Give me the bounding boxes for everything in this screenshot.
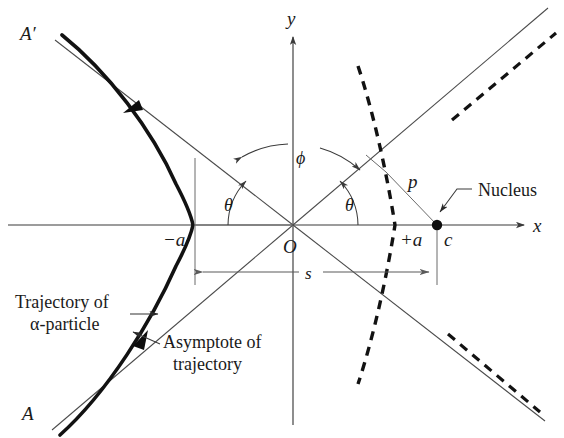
scattering-diagram-canvas: x y O bbox=[0, 0, 564, 438]
separation-label: s bbox=[305, 264, 312, 283]
theta-right-label: θ bbox=[345, 195, 354, 215]
vertex-label-group: −a +a c p bbox=[163, 171, 453, 250]
y-axis-label: y bbox=[285, 8, 296, 29]
trajectory-callout-group: Trajectory of α-particle bbox=[15, 292, 158, 334]
mirror-asymptote-lower-right bbox=[448, 334, 540, 412]
asymptote-lower-left-label: A bbox=[20, 403, 34, 424]
nucleus-pointer-line bbox=[440, 189, 472, 212]
phi-arc-right bbox=[320, 148, 360, 170]
axis-group: x y O bbox=[8, 8, 542, 425]
phi-arc-left bbox=[242, 144, 288, 157]
asymptote-caption-line2: trajectory bbox=[173, 354, 242, 374]
theta-left-label: θ bbox=[224, 195, 233, 215]
vertex-left-label: −a bbox=[163, 229, 185, 250]
asymptote-end-label-group: A′ A bbox=[18, 23, 37, 424]
origin-label: O bbox=[283, 236, 297, 257]
trajectory-caption-line2: α-particle bbox=[30, 314, 99, 334]
nucleus-callout-group: Nucleus bbox=[440, 180, 537, 212]
phi-label: ϕ bbox=[296, 148, 305, 168]
nucleus-label: Nucleus bbox=[478, 180, 537, 200]
separation-dimension-group: s bbox=[203, 262, 429, 283]
asymptote-upper-left-label: A′ bbox=[18, 23, 37, 44]
angle-group: θ θ ϕ bbox=[224, 144, 360, 225]
impact-parameter-label: p bbox=[406, 171, 418, 192]
rutherford-scattering-figure: x y O bbox=[0, 0, 564, 438]
vertex-right-label: +a bbox=[400, 229, 422, 250]
asymptote-upper-left-branch bbox=[55, 40, 293, 225]
asymptote-lower-right-branch bbox=[293, 225, 545, 421]
focus-distance-label: c bbox=[444, 229, 453, 250]
trajectory-caption-line1: Trajectory of bbox=[15, 292, 109, 312]
asymptote-group bbox=[52, 8, 548, 430]
x-axis-label: x bbox=[532, 215, 542, 236]
asymptote-callout-group: Asymptote of trajectory bbox=[133, 332, 262, 374]
nucleus-point bbox=[432, 220, 442, 230]
asymptote-caption-line1: Asymptote of bbox=[163, 332, 262, 352]
